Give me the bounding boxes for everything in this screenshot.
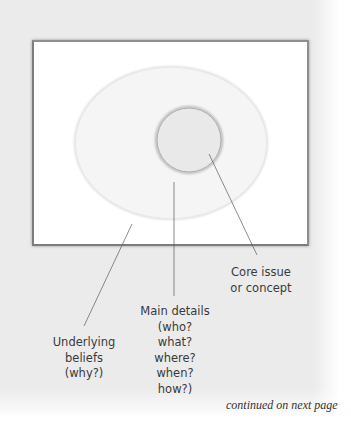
main-details-label-line: (who? bbox=[140, 320, 209, 336]
core-issue-label-line: or concept bbox=[230, 281, 291, 297]
core-issue-label: Core issue or concept bbox=[230, 265, 291, 296]
main-details-label-line: Main details bbox=[140, 304, 209, 320]
main-details-label-line: when? bbox=[140, 366, 209, 382]
continued-on-next-page-note: continued on next page bbox=[226, 398, 338, 413]
underlying-beliefs-label-line: (why?) bbox=[53, 366, 116, 382]
underlying-beliefs-label-line: Underlying bbox=[53, 335, 116, 351]
underlying-beliefs-label: Underlying beliefs (why?) bbox=[53, 335, 116, 382]
core-issue-circle bbox=[157, 108, 221, 172]
core-issue-label-line: Core issue bbox=[230, 265, 291, 281]
main-details-label-line: what? bbox=[140, 335, 209, 351]
underlying-beliefs-leader-line bbox=[84, 224, 132, 326]
main-details-label: Main details (who? what? where? when? ho… bbox=[140, 304, 209, 398]
main-details-label-line: where? bbox=[140, 351, 209, 367]
underlying-beliefs-label-line: beliefs bbox=[53, 351, 116, 367]
main-details-label-line: how?) bbox=[140, 382, 209, 398]
page: Core issue or concept Main details (who?… bbox=[0, 0, 351, 436]
